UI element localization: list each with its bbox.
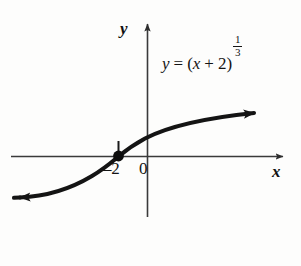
equation-exponent-fraction: 1 3 [233,34,242,58]
equation-variable: x [193,54,201,73]
y-axis-label: y [120,20,128,37]
graph-canvas [0,0,301,266]
figure-container: y x –2 0 y=(x+2) 1 3 [0,0,301,266]
equation-equals: = [174,54,184,73]
x-axis-label: x [272,163,281,180]
x-tick-label-zero: 0 [139,160,148,177]
function-curve [20,113,254,198]
exponent-numerator: 1 [234,34,242,46]
equation-plus: + [204,54,214,73]
equation-annotation: y=(x+2) 1 3 [162,48,242,72]
x-tick-label-neg-two: –2 [103,160,119,177]
equation-close-paren: ) [226,54,232,73]
exponent-denominator: 3 [234,47,242,59]
equation-lhs: y [162,54,170,73]
